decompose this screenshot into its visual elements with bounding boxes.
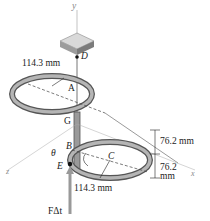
block-icon <box>60 33 94 55</box>
z-axis-label: z <box>6 168 9 176</box>
point-e-label: E <box>57 162 63 172</box>
point-e-marker <box>68 162 72 166</box>
top-radius-arrow <box>52 78 64 86</box>
top-ring-highlight <box>12 76 92 112</box>
diagram: y D 114.3 mm A G B θ C E 76.2 mm 76.2 mm… <box>0 0 210 221</box>
rotation-arc-icon <box>83 153 88 166</box>
y-axis-label: y <box>72 2 76 12</box>
theta-label: θ <box>51 149 56 159</box>
impulse-label: FΔt <box>48 207 62 217</box>
point-a-label: A <box>68 84 75 94</box>
point-c-label: C <box>108 152 114 162</box>
top-radius-label: 114.3 mm <box>22 59 60 69</box>
upper-height-label: 76.2 mm <box>160 137 194 147</box>
x-axis-label: x <box>191 170 195 178</box>
lower-height-unit: mm <box>160 172 175 182</box>
point-b-label: B <box>66 142 72 152</box>
point-d-marker <box>75 55 79 59</box>
point-d-label: D <box>81 52 88 62</box>
bottom-radius-label: 114.3 mm <box>74 184 112 194</box>
connecting-tube <box>74 112 80 170</box>
point-g-label: G <box>64 117 71 127</box>
